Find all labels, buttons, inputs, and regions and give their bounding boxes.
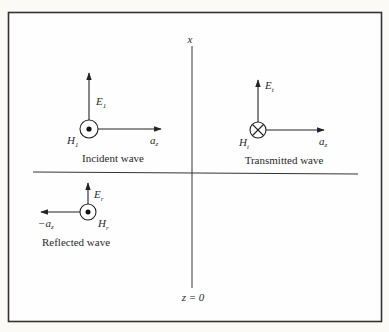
boundary-label: z = 0	[181, 291, 205, 303]
reflected-a-symbol: −a	[38, 217, 51, 229]
transmitted-wave-caption: Transmitted wave	[245, 154, 324, 166]
incident-wave-caption: Incident wave	[82, 152, 144, 164]
x-axis-label: x	[187, 33, 193, 45]
reflected-wave-caption: Reflected wave	[42, 236, 110, 248]
incident-e-subscript: 1	[103, 102, 107, 110]
figure-frame	[9, 13, 382, 322]
transmitted-a-subscript: z	[324, 141, 328, 149]
reflected-e-subscript: r	[101, 195, 104, 203]
incident-h-dot-icon	[86, 126, 91, 131]
incident-a-subscript: z	[155, 140, 159, 148]
reflected-h-subscript: r	[106, 224, 109, 232]
reflected-h-dot-icon	[86, 210, 91, 215]
incident-h-subscript: 1	[75, 141, 79, 149]
reflected-a-subscript: z	[50, 223, 54, 231]
wave-diagram: x z = 0 E1 H1 az Incident wave Et Ht	[0, 0, 389, 332]
